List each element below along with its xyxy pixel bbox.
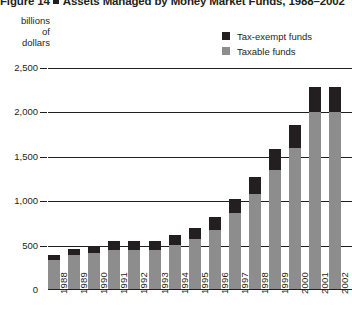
x-tick-label-1993: 1993 bbox=[159, 272, 170, 294]
bar-segment-tax-exempt-1990 bbox=[88, 246, 100, 254]
bar-1999[interactable] bbox=[269, 149, 281, 290]
bar-2000[interactable] bbox=[289, 125, 301, 290]
legend-item-taxable: Taxable funds bbox=[222, 44, 312, 58]
gridline-2000 bbox=[48, 112, 352, 113]
y-tick-dash-2000 bbox=[40, 112, 47, 113]
y-tick-label-1000: 1,000 bbox=[0, 195, 38, 206]
y-tick-dash-2500 bbox=[40, 68, 47, 69]
bar-segment-tax-exempt-2002 bbox=[329, 87, 341, 113]
gridline-1500 bbox=[48, 157, 352, 158]
bar-segment-taxable-2001 bbox=[309, 112, 321, 290]
legend-label-tax-exempt: Tax-exempt funds bbox=[237, 31, 312, 42]
bar-segment-tax-exempt-1998 bbox=[249, 177, 261, 194]
x-tick-label-1991: 1991 bbox=[118, 272, 129, 294]
x-tick-label-1990: 1990 bbox=[98, 272, 109, 294]
x-tick-label-1992: 1992 bbox=[138, 272, 149, 294]
gridline-1000 bbox=[48, 201, 352, 202]
bar-segment-taxable-2002 bbox=[329, 112, 341, 290]
y-axis-unit-line-3: dollars bbox=[2, 38, 50, 49]
bar-segment-tax-exempt-1997 bbox=[229, 199, 241, 214]
bar-segment-tax-exempt-2001 bbox=[309, 87, 321, 113]
y-tick-label-0: 0 bbox=[0, 284, 38, 295]
x-tick-label-1989: 1989 bbox=[78, 272, 89, 294]
y-tick-label-1500: 1,500 bbox=[0, 151, 38, 162]
legend-swatch-gray-icon bbox=[222, 47, 230, 55]
bar-2001[interactable] bbox=[309, 87, 321, 290]
y-tick-dash-1000 bbox=[40, 201, 47, 202]
bar-segment-tax-exempt-1994 bbox=[169, 235, 181, 244]
page-title: Figure 14Assets Managed by Money Market … bbox=[0, 0, 352, 11]
bar-segment-taxable-2000 bbox=[289, 148, 301, 290]
legend-item-tax-exempt: Tax-exempt funds bbox=[222, 29, 312, 43]
chart-legend: Tax-exempt funds Taxable funds bbox=[222, 29, 312, 59]
bar-segment-tax-exempt-1993 bbox=[149, 241, 161, 250]
y-tick-label-500: 500 bbox=[0, 240, 38, 251]
bar-segment-tax-exempt-1991 bbox=[108, 241, 120, 249]
x-tick-label-1995: 1995 bbox=[199, 272, 210, 294]
y-axis-unit-line-2: of bbox=[2, 27, 50, 38]
plot-area bbox=[48, 68, 352, 290]
x-tick-label-1988: 1988 bbox=[58, 272, 69, 294]
bar-segment-tax-exempt-1992 bbox=[128, 241, 140, 249]
bar-segment-tax-exempt-1996 bbox=[209, 217, 221, 230]
x-tick-label-1999: 1999 bbox=[279, 272, 290, 294]
figure-number: Figure 14 bbox=[0, 0, 50, 7]
figure-title-text: Assets Managed by Money Market Funds, 19… bbox=[63, 0, 345, 7]
bar-segment-tax-exempt-1995 bbox=[189, 228, 201, 239]
x-tick-label-2000: 2000 bbox=[299, 272, 310, 294]
x-tick-label-2001: 2001 bbox=[319, 272, 330, 294]
legend-label-taxable: Taxable funds bbox=[237, 46, 296, 57]
x-tick-label-1997: 1997 bbox=[239, 272, 250, 294]
bar-segment-tax-exempt-1999 bbox=[269, 149, 281, 170]
x-tick-label-2002: 2002 bbox=[339, 272, 350, 294]
x-tick-label-1996: 1996 bbox=[219, 272, 230, 294]
x-tick-label-1994: 1994 bbox=[179, 272, 190, 294]
y-tick-label-2500: 2,500 bbox=[0, 62, 38, 73]
y-axis-unit-caption: billions of dollars bbox=[2, 16, 50, 48]
x-tick-label-1998: 1998 bbox=[259, 272, 270, 294]
y-tick-label-2000: 2,000 bbox=[0, 106, 38, 117]
gridline-2500 bbox=[48, 68, 352, 69]
figure-bullet-icon bbox=[53, 0, 59, 4]
y-tick-dash-500 bbox=[40, 246, 47, 247]
bar-segment-tax-exempt-2000 bbox=[289, 125, 301, 148]
legend-swatch-dark-icon bbox=[222, 32, 230, 40]
bar-2002[interactable] bbox=[329, 87, 341, 290]
y-tick-dash-1500 bbox=[40, 157, 47, 158]
